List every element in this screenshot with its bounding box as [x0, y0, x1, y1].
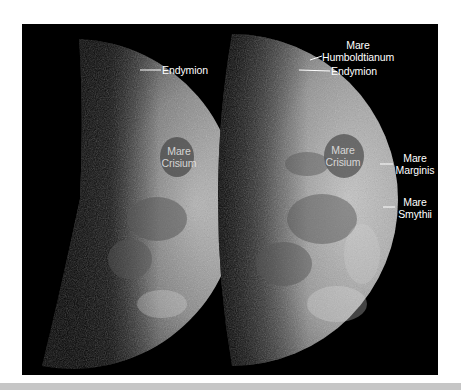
label-text: Mare — [394, 196, 436, 208]
bottom-bar — [0, 383, 461, 390]
label-text: Crisium — [325, 156, 361, 168]
label-text: Mare — [322, 39, 394, 51]
label-text: Crisium — [161, 157, 197, 169]
left-moon — [42, 39, 238, 369]
label-text: Endymion — [331, 65, 377, 77]
label-endymion-left: Endymion — [162, 64, 208, 76]
label-endymion-right: Endymion — [331, 65, 377, 77]
right-moon — [218, 34, 398, 366]
label-text: Endymion — [162, 64, 208, 76]
label-mare-crisium-right: Mare Crisium — [325, 144, 361, 168]
label-text: Mare — [161, 145, 197, 157]
label-text: Mare — [325, 144, 361, 156]
label-mare-humboldtianum: Mare Humboldtianum — [322, 39, 394, 63]
label-text: Humboldtianum — [322, 51, 394, 63]
moon-photo-panel: Endymion Mare Crisium Mare Humboldtianum… — [22, 24, 438, 375]
label-text: Mare — [394, 152, 436, 164]
label-text: Smythii — [394, 208, 436, 220]
label-text: Marginis — [394, 164, 436, 176]
label-mare-smythii: Mare Smythii — [394, 196, 436, 220]
label-mare-marginis: Mare Marginis — [394, 152, 436, 176]
label-mare-crisium-left: Mare Crisium — [161, 145, 197, 169]
